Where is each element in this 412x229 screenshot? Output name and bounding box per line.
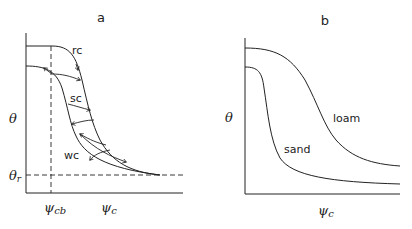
panel-a: a rc sc wc θ θr ψcb ψc [9,10,183,216]
panel-a-psi-cb-label: ψcb [44,200,66,216]
panel-a-title: a [97,10,105,25]
panel-b-title: b [321,13,329,28]
diagram: a rc sc wc θ θr ψcb ψc b [0,0,412,229]
panel-b-loam-curve [245,48,400,166]
panel-a-wc-label: wc [64,149,79,162]
panel-b-loam-label: loam [333,112,360,125]
panel-a-psi-c-label: ψc [101,200,117,216]
panel-a-theta-r-label: θr [9,168,22,184]
panel-a-wc-curve [26,66,160,175]
panel-a-y-label: θ [9,111,17,126]
panel-b: b loam sand θ ψc [225,13,400,219]
panel-b-y-label: θ [225,110,233,125]
panel-a-scan-3 [72,120,94,124]
panel-b-x-label: ψc [318,203,334,219]
panel-a-rc-label: rc [72,44,82,57]
panel-b-sand-label: sand [284,143,310,156]
panel-a-sc-label: sc [70,92,82,105]
panel-b-sand-curve [245,67,400,184]
